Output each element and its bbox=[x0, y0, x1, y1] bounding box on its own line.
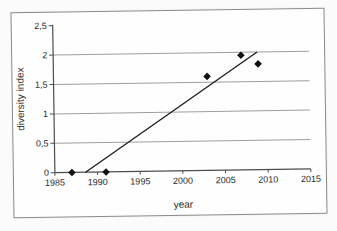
data-point-marker bbox=[203, 72, 211, 80]
y-tick-label: 1,5 bbox=[35, 80, 48, 90]
y-tick-label: 1 bbox=[43, 109, 48, 119]
x-tick-label: 1985 bbox=[45, 178, 65, 188]
y-axis-title: diversity index bbox=[14, 67, 26, 131]
tick-labels: 00,511,522,51985199019952000200520102015 bbox=[34, 17, 321, 188]
scatter-chart: 00,511,522,51985199019952000200520102015… bbox=[12, 9, 327, 218]
x-tick-label: 1990 bbox=[88, 177, 108, 187]
y-tick-label: 2 bbox=[42, 50, 47, 60]
x-tick-label: 1995 bbox=[130, 176, 150, 186]
scanned-page: 00,511,522,51985199019952000200520102015… bbox=[0, 0, 337, 231]
x-tick-label: 2000 bbox=[173, 176, 193, 186]
gridline bbox=[54, 110, 310, 114]
y-tick-label: 0,5 bbox=[36, 138, 49, 148]
data-point-marker bbox=[102, 168, 110, 176]
data-point-marker bbox=[254, 60, 262, 68]
y-tick-label: 0 bbox=[44, 168, 49, 178]
x-tick-label: 2010 bbox=[258, 174, 278, 184]
gridline bbox=[54, 140, 310, 144]
trend-line bbox=[84, 52, 259, 172]
gridline bbox=[53, 51, 309, 55]
axes bbox=[49, 21, 311, 176]
y-tick-label: 2,5 bbox=[34, 21, 47, 31]
data-point-marker bbox=[68, 169, 76, 177]
x-tick-label: 2015 bbox=[301, 174, 321, 184]
x-tick-label: 2005 bbox=[216, 175, 236, 185]
x-axis-title: year bbox=[174, 199, 194, 210]
chart-frame: 00,511,522,51985199019952000200520102015… bbox=[10, 8, 327, 219]
y-axis-line bbox=[53, 25, 55, 173]
gridline bbox=[54, 81, 310, 85]
gridlines bbox=[53, 51, 310, 143]
